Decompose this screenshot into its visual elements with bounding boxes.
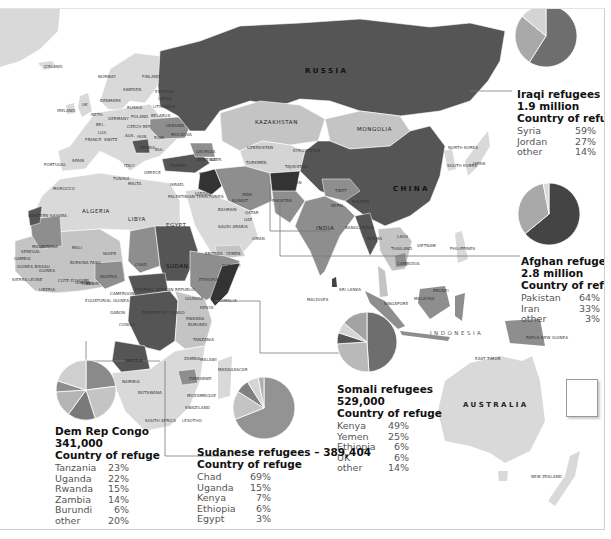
country-label: ESTONIA [155,90,173,94]
legend-country: other [517,147,575,158]
country-label: YEMEN [226,252,240,256]
legend-pct: 69% [249,472,271,483]
country-label: KENYA [200,306,214,310]
country-label: SOUTH AFRICA [145,419,176,423]
label-niger: NIGER [103,252,116,256]
country-label: SWEDEN [123,88,141,92]
country-label: NAMIBIA [122,380,140,384]
legend-country: Rwanda [55,484,107,495]
country-label: BURKINA FASO [70,261,101,265]
country-label: LITHUANIA [153,105,175,109]
country-label: CAMEROON [110,292,134,296]
country-label: SIERRA LEONE [12,278,42,282]
country-label: ERITREA [205,252,223,256]
country-label: GAMBIA [14,257,31,261]
sulawesi-shape [455,293,465,321]
country-label: RWANDA [186,317,204,321]
pie-chart-afghan [517,182,581,246]
country-label: RUSSIA [127,106,142,110]
country-label: GEORGIA [196,150,215,154]
country-label: EAST TIMOR [475,357,501,361]
legend-iraqi-table: Syria59% Jordan27% other14% [517,126,596,158]
pie-chart-somali [336,311,398,373]
legend-drc-title: Dem Rep Congo [55,425,160,437]
legend-row: Tanzania23% [55,463,129,474]
country-label: BOTSWANA [138,391,162,395]
fiji-inset [566,379,598,417]
country-label: UAE [244,218,253,222]
legend-iraqi-title: Iraqi refugees [517,88,605,100]
country-label: AZER. [210,158,222,162]
malay-shape [378,266,388,297]
legend-drc-total: 341,000 [55,437,160,449]
country-label: MALAWI [200,358,217,362]
country-label: GABON [110,311,125,315]
country-label: UK [82,103,88,107]
legend-row: Chad69% [197,472,271,483]
legend-afghan-subtitle: Country of refuge [521,279,605,291]
pie-slice-tanzania [86,360,116,390]
country-label: MOZAMBIQUE [187,394,216,398]
country-label: MALAYSIA [414,297,435,301]
australia-shape [438,356,545,463]
label-kazakhstan: KAZAKHSTAN [255,120,298,126]
country-label: LAOS [397,235,408,239]
tasmania-shape [498,471,508,481]
pie-chart-sudanese [232,376,296,440]
country-label: TURKEY [170,164,186,168]
country-label: OMAN [252,237,265,241]
country-label: BENIN [86,282,99,286]
legend-pct: 6% [387,442,409,453]
country-label: SINGAPORE [384,302,408,306]
madagascar-shape [218,356,232,399]
country-label: FINLAND [142,75,160,79]
label-libya: LIBYA [128,217,146,223]
country-label: THAILAND [391,247,412,251]
country-label: TURKMEN. [246,161,268,165]
country-label: UGANDA [185,297,203,301]
country-label: SERBIA [140,146,155,150]
country-label: LESOTHO [182,419,202,423]
legend-row: Syria59% [517,126,596,137]
country-label: CAMBODIA [397,262,420,266]
country-label: BHUTAN [352,200,369,204]
country-label: PAKISTAN [272,199,292,203]
label-india: INDIA [316,226,334,232]
country-label: LIBERIA [39,288,55,292]
russia-shape [158,19,505,131]
legend-row: Egypt3% [197,514,271,525]
country-label: NORTH KOREA [448,146,478,150]
drc-shape [128,291,178,351]
legend-country: Syria [517,126,575,137]
country-label: BRUNEI [433,289,449,293]
country-label: GUINEA [39,269,55,273]
legend-drc-table: Tanzania23% Uganda22% Rwanda15% Zambia14… [55,463,129,526]
legend-row: Burundi6% [55,505,129,516]
legend-country: Burundi [55,505,107,516]
pie-chart-iraqi [514,8,578,68]
country-label: BAHRAIN [218,208,237,212]
country-label: GERMANY [108,117,129,121]
legend-afghan-title: Afghan refugees [521,255,605,267]
legend-row: Kenya49% [337,421,409,432]
legend-iraqi-subtitle: Country of refuge [517,112,605,124]
country-label: ICELAND [44,65,62,69]
label-iran: IRAN [242,193,252,197]
label-mongolia: MONGOLIA [357,127,392,133]
country-label: ITALY [124,164,135,168]
country-label: ISRAEL [170,183,184,187]
legend-pct: 59% [575,126,596,137]
country-label: SAUDI ARABIA [218,225,248,229]
country-label: ETHIOPIA [199,278,218,282]
country-label: EQUATORIAL GUINEA [85,299,129,303]
legend-pct: 20% [107,516,129,527]
angola-shape [112,341,150,373]
legend-afghan-total: 2.8 million [521,267,605,279]
legend-somali-subtitle: Country of refuge [337,407,442,419]
country-label: KYRGYZSTAN [293,149,320,153]
legend-pct: 3% [579,314,600,325]
label-china: CHINA [393,186,430,193]
legend-afghan: Afghan refugees 2.8 million Country of r… [521,255,605,325]
legend-country: other [521,314,579,325]
country-label: CONGO [119,323,135,327]
